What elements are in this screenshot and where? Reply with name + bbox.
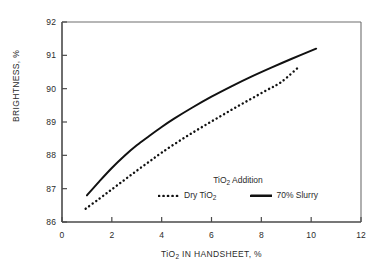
x-axis-title-post: IN HANDSHEET, % — [179, 249, 262, 259]
x-axis-tick-label: 8 — [259, 230, 264, 240]
x-axis-tick-label: 0 — [60, 230, 65, 240]
legend-label-subscript: 2 — [213, 194, 217, 201]
x-axis-title: TiO2 IN HANDSHEET, % — [62, 249, 361, 259]
x-axis-tick-label: 12 — [356, 230, 366, 240]
legend-swatch-solid — [250, 193, 272, 197]
y-axis-tick-label: 89 — [30, 117, 56, 127]
y-axis-title: BRIGHTNESS, % — [11, 50, 21, 122]
legend-entry[interactable]: Dry TiO2 — [158, 190, 216, 200]
y-axis-tick-label: 92 — [30, 17, 56, 27]
y-axis-tick-label: 91 — [30, 50, 56, 60]
chart-figure: 86878889909192 024681012 BRIGHTNESS, % T… — [0, 0, 388, 274]
x-axis-tick-label: 6 — [209, 230, 214, 240]
legend-title-post: Addition — [230, 175, 263, 185]
x-axis-tick-label: 10 — [306, 230, 316, 240]
legend-entry-label: 70% Slurry — [276, 190, 318, 200]
y-axis-tick-label: 87 — [30, 184, 56, 194]
series-line-2 — [87, 49, 316, 196]
y-axis-tick-label: 86 — [30, 217, 56, 227]
legend-title: TiO2 Addition — [158, 175, 318, 185]
legend-swatch-dotted — [158, 193, 180, 197]
x-axis-title-subscript: 2 — [175, 253, 179, 260]
legend-entry-label: Dry TiO2 — [184, 190, 216, 200]
x-axis-tick-label: 4 — [159, 230, 164, 240]
legend: TiO2 Addition Dry TiO270% Slurry — [158, 175, 318, 200]
legend-label-pre: Dry TiO — [184, 190, 213, 200]
x-axis-tick-label: 2 — [109, 230, 114, 240]
legend-title-subscript: 2 — [227, 179, 231, 186]
y-axis-tick-label: 90 — [30, 84, 56, 94]
x-axis-title-pre: TiO — [161, 249, 175, 259]
legend-entry[interactable]: 70% Slurry — [250, 190, 318, 200]
legend-title-pre: TiO — [213, 175, 226, 185]
legend-label-pre: 70% Slurry — [276, 190, 318, 200]
legend-entries: Dry TiO270% Slurry — [158, 190, 318, 200]
plot-canvas — [0, 0, 388, 274]
y-axis-tick-label: 88 — [30, 150, 56, 160]
